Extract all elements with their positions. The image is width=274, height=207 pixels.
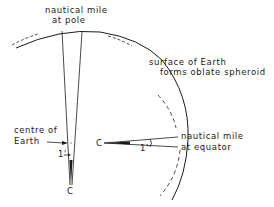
pole-label-line2: at pole bbox=[52, 15, 86, 25]
centre-label-line1: centre of bbox=[14, 125, 57, 135]
pole-angle-label: 1' bbox=[58, 149, 67, 159]
earth-diagram bbox=[0, 0, 274, 207]
equator-label-line1: nautical mile bbox=[181, 131, 244, 141]
surface-label-line2: forms oblate spheroid bbox=[160, 67, 266, 77]
centre-arrow-head bbox=[62, 141, 68, 145]
centre-point-dot bbox=[70, 142, 71, 143]
equator-centre-c-label: C bbox=[96, 138, 103, 148]
centre-arrow-line bbox=[47, 142, 64, 143]
centre-label-line2: Earth bbox=[14, 136, 40, 146]
pole-angle-arrow-head bbox=[68, 154, 71, 157]
pole-radius-right bbox=[72, 32, 82, 185]
pole-label-line1: nautical mile bbox=[45, 5, 108, 15]
pole-centre-c-label: C bbox=[67, 186, 74, 196]
equator-label-line2: at equator bbox=[181, 142, 232, 152]
surface-label-line1: surface of Earth bbox=[149, 57, 226, 67]
reference-circle-dashed-right bbox=[108, 36, 132, 46]
equator-angle-label: 1' bbox=[140, 143, 149, 153]
reference-circle-dashed-left bbox=[12, 34, 38, 45]
pole-radius-left bbox=[62, 31, 70, 185]
reference-circle-dashed-side bbox=[158, 95, 176, 128]
